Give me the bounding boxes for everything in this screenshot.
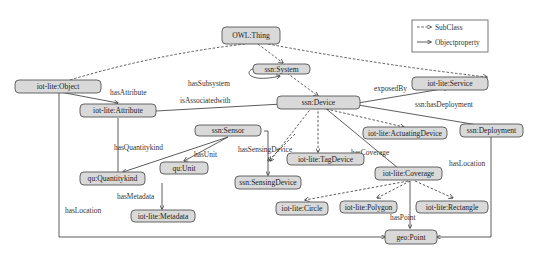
label-isAssociatedwith: isAssociatedwith — [180, 96, 231, 105]
node-iot-actuatingdevice[interactable]: iot-lite:ActuatingDevice — [363, 127, 447, 139]
legend-subclass-label: SubClass — [435, 23, 463, 32]
svg-text:iot-lite:Rectangle: iot-lite:Rectangle — [426, 203, 479, 212]
label-hasPoint: hasPoint — [390, 213, 416, 222]
node-iot-object[interactable]: iot-lite:Object — [15, 80, 101, 93]
node-iot-tagdevice[interactable]: iot-lite:TagDevice — [287, 153, 364, 165]
label-exposedBy: exposedBy — [374, 84, 407, 93]
svg-text:ssn:Deployment: ssn:Deployment — [467, 126, 517, 135]
node-geo-point[interactable]: geo:Point — [385, 230, 437, 244]
node-iot-service[interactable]: iot-lite:Service — [412, 77, 488, 90]
svg-text:OWL:Thing: OWL:Thing — [232, 31, 270, 40]
label-hasQuantitykind: hasQuantitykind — [114, 143, 163, 152]
node-ssn-device[interactable]: ssn:Device — [277, 96, 360, 109]
node-ssn-deployment[interactable]: ssn:Deployment — [460, 124, 523, 137]
label-hasLocation-right: hasLocation — [449, 159, 485, 168]
node-qu-unit[interactable]: qu:Unit — [160, 162, 208, 174]
label-hasMetadata: hasMetadata — [117, 192, 155, 201]
node-ssn-sensor[interactable]: ssn:Sensor — [195, 125, 261, 136]
node-qu-quantitykind[interactable]: qu:Quantitykind — [80, 172, 145, 185]
svg-text:ssn:System: ssn:System — [264, 65, 298, 74]
svg-text:iot-lite:Polygon: iot-lite:Polygon — [345, 203, 393, 212]
label-hasLocation-left: hasLocation — [65, 206, 101, 215]
node-ssn-system[interactable]: ssn:System — [253, 64, 310, 74]
svg-text:ssn:Device: ssn:Device — [302, 98, 336, 107]
svg-text:iot-lite:ActuatingDevice: iot-lite:ActuatingDevice — [368, 129, 442, 138]
legend: SubClass Objectproperty — [412, 20, 488, 52]
label-hasAttribute: hasAttribute — [110, 88, 147, 97]
svg-text:iot-lite:Attribute: iot-lite:Attribute — [93, 106, 143, 115]
label-hasDeployment: ssn:hasDeployment — [415, 100, 474, 109]
label-hasUnit: hasUnit — [194, 150, 218, 159]
svg-text:iot-lite:Circle: iot-lite:Circle — [282, 204, 324, 213]
svg-text:iot-lite:Coverage: iot-lite:Coverage — [383, 169, 435, 178]
node-iot-circle[interactable]: iot-lite:Circle — [276, 202, 328, 215]
svg-text:iot-lite:Metadata: iot-lite:Metadata — [138, 212, 189, 221]
svg-text:iot-lite:Service: iot-lite:Service — [427, 79, 473, 88]
node-iot-attribute[interactable]: iot-lite:Attribute — [80, 104, 156, 117]
svg-text:ssn:Sensor: ssn:Sensor — [212, 126, 245, 135]
node-iot-metadata[interactable]: iot-lite:Metadata — [131, 210, 195, 222]
ontology-diagram: SubClass Objectproperty hasSubsy — [0, 0, 538, 256]
svg-text:qu:Quantitykind: qu:Quantitykind — [88, 174, 138, 183]
node-iot-coverage[interactable]: iot-lite:Coverage — [375, 167, 442, 180]
svg-text:iot-lite:TagDevice: iot-lite:TagDevice — [298, 155, 354, 164]
node-iot-rectangle[interactable]: iot-lite:Rectangle — [416, 201, 488, 213]
node-ssn-sensingdevice[interactable]: ssn:SensingDevice — [235, 176, 301, 189]
svg-text:qu:Unit: qu:Unit — [172, 164, 196, 173]
label-hasSubsystem: hasSubsystem — [188, 79, 230, 88]
svg-text:ssn:SensingDevice: ssn:SensingDevice — [239, 178, 297, 187]
node-iot-polygon[interactable]: iot-lite:Polygon — [340, 201, 397, 213]
svg-text:geo:Point: geo:Point — [396, 233, 426, 242]
legend-objectproperty-label: Objectproperty — [435, 38, 480, 47]
node-owl-thing[interactable]: OWL:Thing — [222, 27, 280, 44]
label-hasSensingDevice: hasSensingDevice — [238, 145, 293, 154]
svg-text:iot-lite:Object: iot-lite:Object — [37, 82, 80, 91]
